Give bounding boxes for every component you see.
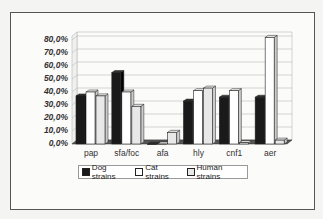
- x-tick-label: hly: [179, 148, 219, 158]
- y-tick-label: 60,0%: [30, 60, 68, 70]
- y-tick-label: 10,0%: [30, 125, 68, 135]
- y-tick-label: 70,0%: [30, 47, 68, 57]
- x-tick-label: sfa/foc: [107, 148, 147, 158]
- legend-item-human: Human strains: [187, 163, 247, 181]
- y-tick-label: 40,0%: [30, 86, 68, 96]
- swatch-cat-icon: [135, 168, 143, 176]
- x-tick-label: aer: [250, 148, 290, 158]
- x-tick-label: afa: [143, 148, 183, 158]
- y-tick-label: 30,0%: [30, 99, 68, 109]
- legend-item-cat: Cat strains: [135, 163, 182, 181]
- y-tick-label: 20,0%: [30, 112, 68, 122]
- y-tick-label: 80,0%: [30, 34, 68, 44]
- swatch-dog-icon: [82, 168, 90, 176]
- legend: Dog strains Cat strains Human strains: [78, 165, 248, 179]
- swatch-human-icon: [187, 168, 195, 176]
- plot-area: [0, 0, 323, 219]
- x-tick-label: pap: [71, 148, 111, 158]
- y-tick-label: 50,0%: [30, 73, 68, 83]
- x-tick-label: cnf1: [214, 148, 254, 158]
- legend-item-dog: Dog strains: [82, 163, 131, 181]
- y-tick-label: 0,0%: [30, 138, 68, 148]
